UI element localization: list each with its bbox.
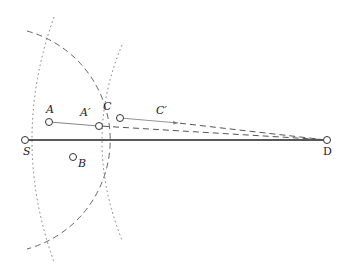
node-A-prime: [96, 123, 103, 130]
edge-Aprime-D: [103, 126, 323, 139]
node-C: [117, 115, 124, 122]
label-D: D: [323, 145, 332, 158]
node-D: [324, 137, 331, 144]
label-A: A: [45, 103, 54, 116]
diagram-canvas: S D A A′ C B C′: [0, 0, 348, 276]
node-A: [46, 119, 53, 126]
label-B: B: [77, 157, 86, 170]
label-S: S: [23, 145, 31, 158]
node-S: [22, 137, 29, 144]
edge-Cprime-D: [180, 123, 323, 139]
label-C-prime: C′: [156, 104, 167, 117]
dotted-arc-inner: [102, 45, 122, 240]
node-B: [70, 154, 77, 161]
edge-C-Cprime: [124, 118, 178, 123]
edge-A-Aprime: [53, 122, 95, 125]
arrow-head-icon: [173, 121, 178, 125]
label-C: C: [103, 100, 112, 113]
label-A-prime: A′: [79, 106, 91, 119]
